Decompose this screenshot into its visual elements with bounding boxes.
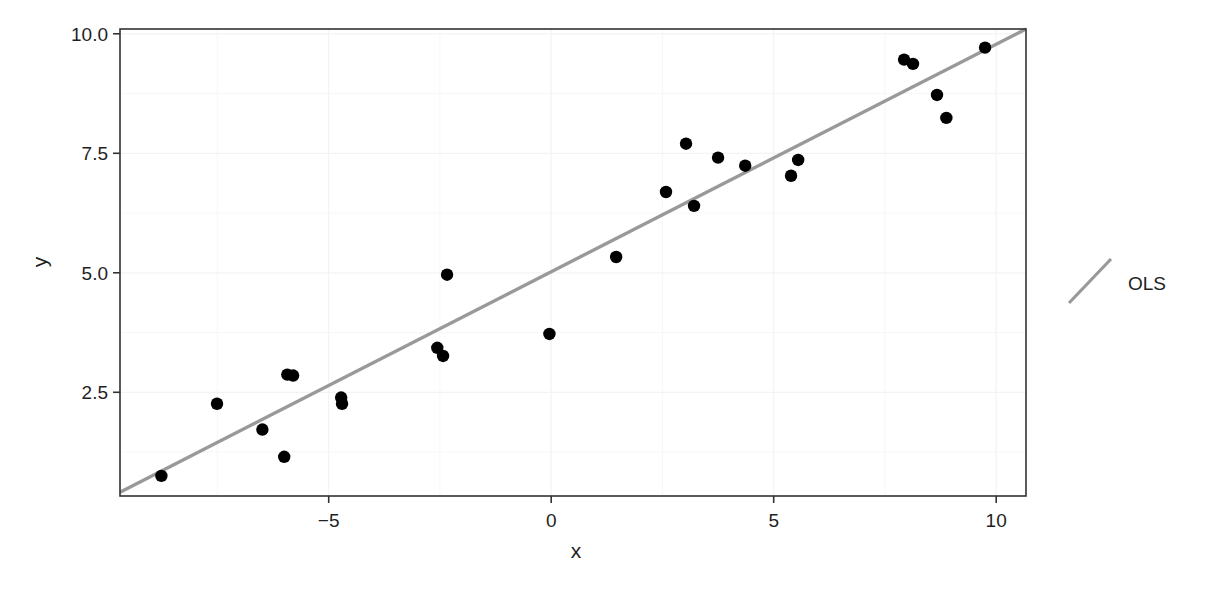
x-tick-label: 5 [768, 510, 779, 531]
data-point [907, 58, 919, 70]
legend-ols-label: OLS [1128, 273, 1166, 294]
data-point [712, 151, 724, 163]
y-tick-label: 7.5 [82, 143, 108, 164]
x-tick-label: 10 [986, 510, 1007, 531]
y-tick-label: 5.0 [82, 263, 108, 284]
data-point [785, 170, 797, 182]
y-tick-label: 2.5 [82, 382, 108, 403]
data-point [610, 251, 622, 263]
data-point [931, 89, 943, 101]
data-point [688, 200, 700, 212]
data-point [256, 423, 268, 435]
y-axis-title: y [28, 256, 51, 267]
data-point [660, 186, 672, 198]
data-point [155, 470, 167, 482]
data-point [287, 369, 299, 381]
x-axis-title: x [571, 539, 582, 562]
data-point [437, 350, 449, 362]
data-point [940, 112, 952, 124]
data-point [792, 154, 804, 166]
x-tick-label: −5 [318, 510, 340, 531]
data-point [278, 451, 290, 463]
data-point [211, 398, 223, 410]
data-point [979, 41, 991, 53]
y-tick-label: 10.0 [71, 24, 108, 45]
data-point [543, 328, 555, 340]
data-point [680, 138, 692, 150]
data-point [336, 398, 348, 410]
scatter-chart: −50510 2.55.07.510.0 x y OLS [0, 0, 1205, 591]
chart-background [0, 0, 1205, 591]
x-tick-label: 0 [546, 510, 557, 531]
data-point [441, 268, 453, 280]
data-point [739, 160, 751, 172]
